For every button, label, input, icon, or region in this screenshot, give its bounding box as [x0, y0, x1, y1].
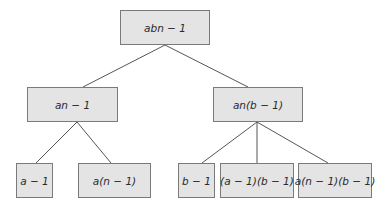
node-root: abn − 1 [120, 10, 210, 45]
node-left: an − 1 [27, 87, 118, 122]
node-left-left: a − 1 [16, 163, 53, 198]
tree-edge [83, 45, 165, 87]
node-right-right: a(n − 1)(b − 1) [298, 163, 372, 198]
tree-edge [202, 122, 257, 163]
tree-edge [77, 122, 111, 163]
node-right-middle: (a − 1)(b − 1) [220, 163, 294, 198]
node-left-right: a(n − 1) [78, 163, 151, 198]
tree-edge [165, 45, 248, 87]
tree-edge [257, 122, 328, 163]
node-right: an(b − 1) [213, 87, 303, 122]
tree-edge [36, 122, 77, 163]
node-right-left: b − 1 [178, 163, 215, 198]
